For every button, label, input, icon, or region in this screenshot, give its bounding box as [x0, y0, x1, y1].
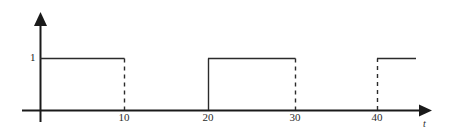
x-tick-label-20: 20: [198, 112, 218, 123]
plot-canvas: [0, 0, 457, 135]
y-axis-value-label: 1: [30, 52, 36, 63]
square-wave-figure: 1 10 20 30 40 t: [0, 0, 457, 135]
x-tick-label-30: 30: [285, 112, 305, 123]
x-tick-label-10: 10: [114, 112, 134, 123]
x-axis-arrowhead: [419, 105, 432, 117]
x-axis-name-label: t: [423, 119, 426, 129]
x-tick-label-40: 40: [367, 112, 387, 123]
y-axis-arrowhead: [34, 12, 47, 26]
